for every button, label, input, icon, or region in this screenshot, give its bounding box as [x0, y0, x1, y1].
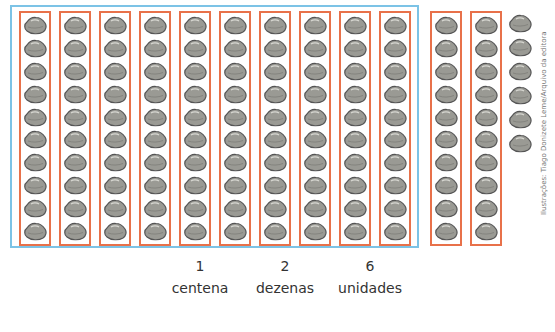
stone-icon — [63, 153, 87, 172]
stone-icon — [63, 176, 87, 195]
stone-icon — [434, 153, 458, 172]
unidades-value: 6 — [330, 258, 410, 274]
ten-group-in-hundred — [179, 11, 211, 246]
stone-icon — [303, 85, 327, 104]
stone-icon — [434, 108, 458, 127]
centena-value: 1 — [170, 258, 230, 274]
stone-icon — [383, 176, 407, 195]
stone-icon — [383, 199, 407, 218]
stone-icon — [103, 222, 127, 241]
centena-text: centena — [170, 280, 230, 296]
stone-icon — [263, 39, 287, 58]
stone-icon — [303, 176, 327, 195]
stone-icon — [383, 153, 407, 172]
stone-icon — [508, 14, 532, 33]
stone-icon — [263, 153, 287, 172]
ten-group — [430, 11, 462, 246]
stone-icon — [183, 153, 207, 172]
stone-icon — [103, 153, 127, 172]
stone-icon — [223, 62, 247, 81]
ten-group-in-hundred — [59, 11, 91, 246]
stone-icon — [303, 39, 327, 58]
stone-icon — [343, 130, 367, 149]
ten-group-in-hundred — [259, 11, 291, 246]
illustration-credit: Ilustrações: Tiago Donizete Leme/Arquivo… — [538, 10, 552, 220]
stone-icon — [143, 39, 167, 58]
stone-icon — [143, 62, 167, 81]
stone-icon — [183, 108, 207, 127]
ten-group-in-hundred — [19, 11, 51, 246]
stone-icon — [434, 16, 458, 35]
dezenas-text: dezenas — [250, 280, 320, 296]
stone-icon — [474, 176, 498, 195]
stone-icon — [183, 176, 207, 195]
stone-icon — [434, 176, 458, 195]
stone-icon — [474, 222, 498, 241]
stone-icon — [223, 85, 247, 104]
stone-icon — [23, 39, 47, 58]
stone-icon — [23, 108, 47, 127]
stone-icon — [263, 108, 287, 127]
stone-icon — [303, 108, 327, 127]
stone-icon — [23, 199, 47, 218]
stone-icon — [434, 222, 458, 241]
stone-icon — [223, 153, 247, 172]
stone-icon — [383, 85, 407, 104]
stone-icon — [383, 39, 407, 58]
stone-icon — [63, 62, 87, 81]
stone-icon — [23, 222, 47, 241]
stone-icon — [63, 85, 87, 104]
stone-icon — [223, 176, 247, 195]
stone-icon — [383, 222, 407, 241]
stone-icon — [343, 153, 367, 172]
stone-icon — [383, 130, 407, 149]
stone-icon — [183, 39, 207, 58]
unidades-text: unidades — [330, 280, 410, 296]
stone-icon — [103, 199, 127, 218]
label-unidades: 6 unidades — [330, 258, 410, 296]
stone-icon — [103, 62, 127, 81]
stone-icon — [23, 176, 47, 195]
stone-icon — [263, 199, 287, 218]
stone-icon — [303, 153, 327, 172]
stone-icon — [303, 130, 327, 149]
stone-icon — [434, 199, 458, 218]
stone-icon — [143, 199, 167, 218]
loose-stones — [508, 14, 532, 153]
stone-icon — [63, 199, 87, 218]
stone-icon — [143, 130, 167, 149]
stone-icon — [263, 16, 287, 35]
stone-icon — [508, 86, 532, 105]
stone-icon — [508, 110, 532, 129]
stone-icon — [143, 16, 167, 35]
stone-icon — [303, 222, 327, 241]
stone-icon — [103, 130, 127, 149]
stone-icon — [23, 62, 47, 81]
stone-icon — [103, 16, 127, 35]
stone-icon — [143, 176, 167, 195]
stone-icon — [263, 85, 287, 104]
ten-group-in-hundred — [339, 11, 371, 246]
stone-icon — [263, 130, 287, 149]
ten-group — [470, 11, 502, 246]
stone-icon — [343, 222, 367, 241]
stone-icon — [508, 38, 532, 57]
stone-icon — [508, 62, 532, 81]
stone-icon — [434, 85, 458, 104]
stone-icon — [103, 108, 127, 127]
stone-icon — [434, 39, 458, 58]
stone-icon — [63, 39, 87, 58]
stone-icon — [183, 222, 207, 241]
stone-icon — [474, 85, 498, 104]
stone-icon — [23, 85, 47, 104]
stone-icon — [263, 222, 287, 241]
stone-icon — [143, 108, 167, 127]
stone-icon — [343, 85, 367, 104]
stone-icon — [103, 176, 127, 195]
stone-icon — [63, 130, 87, 149]
stone-icon — [223, 108, 247, 127]
ten-group-in-hundred — [219, 11, 251, 246]
stone-icon — [223, 16, 247, 35]
stone-icon — [303, 62, 327, 81]
stone-icon — [343, 199, 367, 218]
